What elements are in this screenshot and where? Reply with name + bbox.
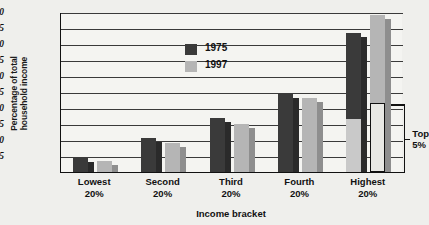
x-axis-tick-labels: Lowest20%Second20%Third20%Fourth20%Highe…	[60, 176, 402, 206]
bar-side-1975-4	[361, 37, 367, 172]
y-tick-label-5: 5	[0, 151, 4, 161]
y-tick-label-50: 50	[0, 7, 4, 17]
x-tick-label-2-line-1: 20%	[197, 188, 265, 200]
bar-side-1975-3	[293, 98, 299, 172]
x-tick-label-4-line-1: 20%	[334, 188, 402, 200]
y-tick-label-40: 40	[0, 39, 4, 49]
bar-1975-Third	[210, 118, 225, 172]
bar-group-4	[346, 12, 391, 172]
y-tick-label-45: 45	[0, 23, 4, 33]
x-tick-label-2-line-0: Third	[197, 176, 265, 188]
bar-side-1975-2	[225, 122, 231, 172]
bar-side-1975-1	[156, 142, 162, 172]
bar-1997-Highest	[370, 15, 385, 172]
x-tick-label-4-line-0: Highest	[334, 176, 402, 188]
top5-label-line-2: 5%	[412, 139, 429, 150]
top5-label: Top 5%	[412, 128, 429, 150]
top5-label-line-1: Top	[412, 128, 429, 139]
x-tick-label-1-line-0: Second	[128, 176, 196, 188]
top5-segment-1997	[370, 103, 385, 172]
bar-1997-Third	[234, 124, 249, 172]
bracket-top-line	[391, 104, 405, 105]
bar-series-container	[61, 12, 403, 172]
bar-group-1	[141, 12, 186, 172]
y-tick-label-35: 35	[0, 55, 4, 65]
bar-1975-Highest	[346, 33, 361, 172]
bracket-bottom-line	[391, 172, 405, 173]
y-tick-label-20: 20	[0, 103, 4, 113]
bracket-vertical-line	[404, 104, 405, 173]
bar-group-2	[210, 12, 255, 172]
bar-1975-Fourth	[278, 94, 293, 172]
y-tick-label-10: 10	[0, 135, 4, 145]
bar-1975-Second	[141, 138, 156, 172]
x-tick-label-4: Highest20%	[334, 176, 402, 199]
bar-group-0	[73, 12, 118, 172]
x-tick-label-0-line-0: Lowest	[60, 176, 128, 188]
bar-1997-Fourth	[302, 98, 317, 172]
x-tick-label-3-line-1: 20%	[265, 188, 333, 200]
bar-group-3	[278, 12, 323, 172]
x-axis-title: Income bracket	[60, 208, 402, 219]
bar-1975-Lowest	[73, 158, 88, 172]
x-tick-label-0-line-1: 20%	[60, 188, 128, 200]
x-tick-label-2: Third20%	[197, 176, 265, 199]
bar-1997-Second	[165, 143, 180, 172]
x-tick-label-3-line-0: Fourth	[265, 176, 333, 188]
top5-bracket	[390, 104, 405, 173]
y-tick-label-15: 15	[0, 119, 4, 129]
bar-side-1997-1	[180, 147, 186, 172]
x-tick-label-1: Second20%	[128, 176, 196, 199]
bar-side-1997-0	[112, 165, 118, 172]
y-tick-label-25: 25	[0, 87, 4, 97]
top5-segment-1975	[346, 119, 361, 172]
bar-side-1997-3	[317, 102, 323, 172]
bar-side-1975-0	[88, 162, 94, 172]
x-tick-label-1-line-1: 20%	[128, 188, 196, 200]
bar-side-1997-2	[249, 128, 255, 172]
bar-1997-Lowest	[97, 161, 112, 172]
plot-area: 1975 1997 Top 5%	[60, 13, 402, 173]
y-tick-label-30: 30	[0, 71, 4, 81]
x-tick-label-3: Fourth20%	[265, 176, 333, 199]
x-tick-label-0: Lowest20%	[60, 176, 128, 199]
